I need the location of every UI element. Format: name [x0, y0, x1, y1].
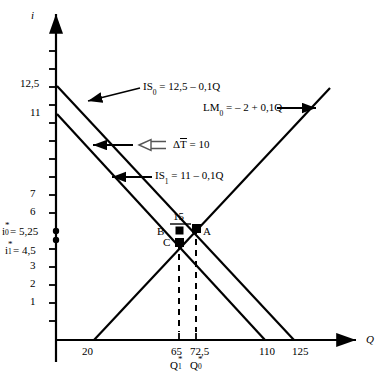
- is0-leader-arrow: [88, 88, 140, 101]
- q0-star-sub: *0: [198, 358, 203, 369]
- is1-name: IS: [155, 169, 165, 181]
- y-tick-label-6: 6: [30, 206, 36, 217]
- delta-symbol: Δ: [173, 138, 180, 150]
- i1-star-sub: *1: [8, 243, 13, 254]
- is0-name: IS: [143, 80, 153, 92]
- is0-equation-label: IS0 = 12,5 – 0,1Q: [143, 81, 220, 95]
- y-axis-label: i: [31, 10, 34, 21]
- q0-symbol: Q: [190, 359, 198, 371]
- x-tick-label-20: 20: [82, 346, 93, 357]
- x-axis-label: Q: [366, 334, 374, 345]
- y-tick-label-11: 11: [30, 107, 41, 118]
- q1-symbol: Q: [170, 359, 178, 371]
- lm0-equation-label: LM0 = – 2 + 0,1Q: [203, 102, 282, 116]
- is1-expression: = 11 – 0,1Q: [171, 169, 223, 181]
- point-marker-a: [192, 224, 201, 233]
- lm0-name: LM: [203, 101, 220, 113]
- t-bar-symbol: T: [180, 138, 187, 150]
- lm0-expression: = – 2 + 0,1Q: [226, 101, 282, 113]
- i0-star-sub: *0: [5, 224, 10, 235]
- point-marker-b: [176, 227, 184, 235]
- lm0-subscript: 0: [220, 109, 224, 118]
- is1-equation-label: IS1 = 11 – 0,1Q: [155, 170, 224, 184]
- x-label-q0-star: Q*0: [190, 358, 203, 371]
- y-tick-label-2: 2: [30, 278, 36, 289]
- is0-expression: = 12,5 – 0,1Q: [159, 80, 220, 92]
- y-tick-label-3: 3: [30, 260, 36, 271]
- y-label-i1-star: i*1= 4,5: [5, 243, 36, 256]
- chart-canvas: [0, 0, 385, 371]
- point-label-a: A: [203, 226, 211, 237]
- y-label-i0-star: i*0= 5,25: [2, 224, 38, 237]
- point-marker-c: [175, 238, 184, 247]
- is1-subscript: 1: [165, 177, 169, 186]
- lm0-curve: [94, 88, 330, 340]
- point-label-c: C: [163, 237, 170, 248]
- x-tick-label-110: 110: [259, 346, 275, 357]
- is0-subscript: 0: [153, 88, 157, 97]
- i1-value: = 4,5: [13, 244, 36, 256]
- y-tick-label-1: 1: [30, 296, 36, 307]
- shift-arrow-hollow: [139, 140, 166, 151]
- is-lm-chart: i Q 12,5 11 7 6 3 2 1 i*0= 5,25 i*1= 4,5…: [0, 0, 385, 371]
- shift-value: = 10: [190, 138, 210, 150]
- gap-value-label: 15: [173, 211, 184, 222]
- x-tick-label-125: 125: [292, 346, 309, 357]
- x-label-q1-star: Q*1: [170, 358, 183, 371]
- y-tick-label-12-5: 12,5: [20, 78, 39, 89]
- tax-shift-label: ΔT = 10: [173, 138, 210, 150]
- q1-star-sub: *1: [178, 358, 183, 369]
- y-tick-label-7: 7: [30, 188, 36, 199]
- i0-value: = 5,25: [10, 225, 38, 237]
